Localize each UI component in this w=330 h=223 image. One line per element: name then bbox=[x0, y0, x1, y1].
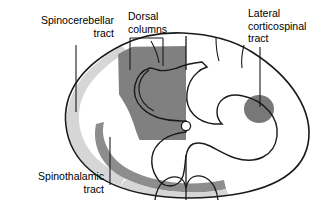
label-dorsal-columns: Dorsal columns bbox=[128, 10, 208, 35]
label-spinothalamic-tract: Spinothalamic tract bbox=[18, 170, 104, 195]
lateral-corticospinal-tract-region bbox=[244, 95, 274, 123]
dorsal-sulcus-far-right bbox=[242, 45, 244, 68]
figure-canvas: Spinocerebellar tract Dorsal columns Lat… bbox=[0, 0, 330, 223]
central-canal bbox=[181, 121, 190, 130]
label-lateral-corticospinal-tract: Lateral corticospinal tract bbox=[248, 7, 326, 45]
label-spinocerebellar-tract: Spinocerebellar tract bbox=[8, 14, 114, 39]
dorsal-sulcus-right bbox=[216, 38, 219, 61]
